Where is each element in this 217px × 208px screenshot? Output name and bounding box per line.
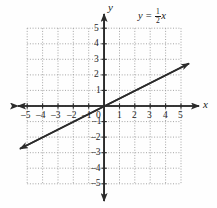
x-tick-label-2: 2	[132, 111, 137, 121]
graph-canvas	[0, 0, 217, 208]
y-axis-label: y	[108, 2, 113, 13]
y-tick-label-3: 3	[94, 55, 99, 65]
equation-lhs: y	[138, 11, 143, 22]
y-tick-label-neg2: –2	[91, 133, 101, 143]
y-tick-label-neg5: –5	[91, 179, 101, 189]
x-tick-label-1: 1	[117, 111, 122, 121]
x-axis-label: x	[203, 99, 208, 110]
y-tick-label-4: 4	[94, 39, 99, 49]
x-tick-label-neg3: –3	[51, 111, 61, 121]
y-tick-label-2: 2	[94, 70, 99, 80]
equation-equals-sign: =	[146, 11, 152, 22]
y-tick-label-neg1: –1	[92, 117, 102, 127]
x-tick-label-4: 4	[163, 111, 168, 121]
x-tick-label-5: 5	[178, 111, 183, 121]
x-tick-label-neg2: –2	[67, 111, 77, 121]
x-tick-label-3: 3	[147, 111, 152, 121]
fraction-denominator: 2	[155, 16, 161, 25]
y-tick-label-neg4: –4	[91, 164, 101, 174]
y-tick-label-1: 1	[96, 86, 101, 96]
x-tick-label-neg5: –5	[21, 111, 31, 121]
x-tick-label-neg4: –4	[36, 111, 46, 121]
fraction-one-half: 1 2	[155, 8, 161, 25]
equation-variable: x	[161, 11, 166, 22]
x-tick-label-neg1: –1	[82, 111, 92, 121]
fraction-numerator: 1	[155, 8, 161, 16]
equation-annotation: y = 1 2 x	[138, 8, 166, 25]
y-tick-label-5: 5	[94, 24, 99, 34]
y-tick-label-neg3: –3	[91, 148, 101, 158]
coordinate-plane-figure: y x –5 –4 –3 –2 –1 0 1 2 3 4 5 5 4 3 2 1…	[0, 0, 217, 208]
